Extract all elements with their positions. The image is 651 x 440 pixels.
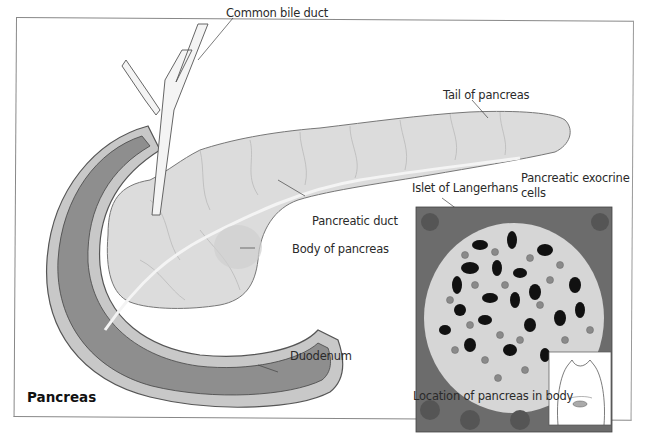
- label-pancreatic-exocrine-cells: Pancreatic exocrine cells: [521, 171, 630, 201]
- label-duodenum: Duodenum: [290, 349, 352, 363]
- label-exocrine-line1: Pancreatic exocrine: [521, 171, 630, 186]
- label-body-of-pancreas: Body of pancreas: [292, 242, 389, 256]
- figure-title: Pancreas: [27, 389, 96, 405]
- pancreas-location-marker-icon: [573, 401, 587, 407]
- label-exocrine-line2: cells: [521, 186, 630, 201]
- label-islet-of-langerhans: Islet of Langerhans: [412, 181, 518, 195]
- label-pancreatic-duct: Pancreatic duct: [312, 214, 398, 228]
- label-tail-of-pancreas: Tail of pancreas: [443, 88, 529, 102]
- label-common-bile-duct: Common bile duct: [226, 6, 328, 20]
- label-location-in-body: Location of pancreas in body: [413, 389, 573, 403]
